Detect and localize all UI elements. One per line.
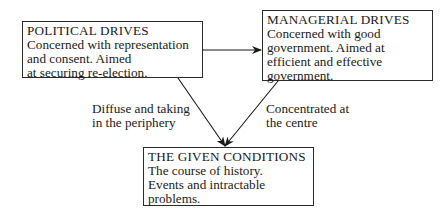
- political-drives-box: POLITICAL DRIVES Concerned with represen…: [22, 21, 203, 78]
- right-edge-label-line: Concentrated at: [266, 102, 349, 116]
- right-edge-label: Concentrated at the centre: [266, 102, 349, 130]
- political-drives-line: and consent. Aimed: [27, 52, 198, 66]
- given-conditions-line: problems.: [148, 192, 309, 206]
- left-edge-label-line: in the periphery: [92, 116, 190, 130]
- left-edge-label-line: Diffuse and taking: [92, 102, 190, 116]
- political-drives-title: POLITICAL DRIVES: [27, 24, 198, 38]
- political-drives-line: at securing re-election.: [27, 66, 198, 80]
- managerial-drives-line: efficient and effective: [267, 55, 428, 69]
- right-edge-label-line: the centre: [266, 116, 349, 130]
- managerial-drives-line: Concerned with good: [267, 27, 428, 41]
- given-conditions-title: THE GIVEN CONDITIONS: [148, 150, 309, 164]
- managerial-drives-box: MANAGERIAL DRIVES Concerned with good go…: [262, 10, 433, 81]
- political-drives-line: Concerned with representation: [27, 38, 198, 52]
- given-conditions-box: THE GIVEN CONDITIONS The course of histo…: [143, 147, 314, 206]
- given-conditions-line: Events and intractable: [148, 178, 309, 192]
- managerial-drives-line: government. Aimed at: [267, 41, 428, 55]
- managerial-drives-line: government.: [267, 69, 428, 83]
- left-edge-label: Diffuse and taking in the periphery: [92, 102, 190, 130]
- given-conditions-line: The course of history.: [148, 164, 309, 178]
- managerial-drives-title: MANAGERIAL DRIVES: [267, 13, 428, 27]
